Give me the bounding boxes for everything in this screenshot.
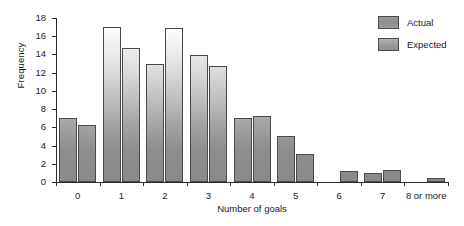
bar-expected-1: [122, 48, 140, 182]
y-tick-label: 16: [35, 30, 46, 41]
y-tick: 2: [52, 164, 56, 165]
x-tick: [56, 182, 57, 186]
x-tick-label: 8 or more: [406, 190, 447, 201]
bar-expected-4: [253, 116, 271, 182]
x-tick: [230, 182, 231, 186]
x-tick: [100, 182, 101, 186]
x-tick: [143, 182, 144, 186]
x-tick-label: 5: [293, 190, 298, 201]
bar-expected-2: [165, 28, 183, 182]
bar-actual-2: [146, 64, 164, 182]
y-tick-label: 10: [35, 84, 46, 95]
y-tick-label: 14: [35, 48, 46, 59]
y-axis-title: Frequency: [15, 24, 26, 108]
x-tick: [274, 182, 275, 186]
bar-expected-6: [340, 171, 358, 182]
y-tick-label: 12: [35, 66, 46, 77]
x-axis-title: Number of goals: [56, 203, 448, 214]
legend-item-expected: Expected: [378, 36, 447, 53]
x-tick: [448, 182, 449, 186]
y-tick-label: 0: [41, 176, 46, 187]
bar-actual-1: [103, 27, 121, 182]
x-tick-label: 0: [75, 190, 80, 201]
y-axis-line: [56, 18, 57, 182]
y-tick-label: 8: [41, 103, 46, 114]
y-tick: 12: [52, 73, 56, 74]
bar-expected-7: [383, 170, 401, 182]
x-tick-label: 4: [249, 190, 254, 201]
bar-expected-5: [296, 154, 314, 182]
bar-actual-7: [364, 173, 382, 182]
bar-actual-0: [59, 118, 77, 182]
x-tick: [317, 182, 318, 186]
x-tick: [187, 182, 188, 186]
bar-expected-0: [78, 125, 96, 182]
bar-actual-5: [277, 136, 295, 182]
y-tick: 10: [52, 91, 56, 92]
y-tick-label: 18: [35, 12, 46, 23]
legend: Actual Expected: [378, 14, 447, 58]
bar-actual-3: [190, 55, 208, 182]
y-tick: 16: [52, 36, 56, 37]
bar-expected-8: [427, 178, 445, 182]
x-tick: [404, 182, 405, 186]
y-tick: 4: [52, 146, 56, 147]
y-tick: 18: [52, 18, 56, 19]
legend-swatch-expected: [378, 38, 399, 51]
x-tick: [361, 182, 362, 186]
y-tick: 8: [52, 109, 56, 110]
legend-label-expected: Expected: [407, 39, 447, 50]
x-tick-label: 7: [380, 190, 385, 201]
bar-expected-3: [209, 66, 227, 182]
x-axis-line: [56, 182, 448, 183]
bar-chart-figure: Frequency 024681012141618 012345678 or m…: [0, 0, 464, 226]
x-tick-label: 3: [206, 190, 211, 201]
x-tick-label: 1: [119, 190, 124, 201]
legend-label-actual: Actual: [407, 17, 433, 28]
y-tick: 6: [52, 127, 56, 128]
legend-item-actual: Actual: [378, 14, 447, 31]
y-tick: 14: [52, 54, 56, 55]
x-tick-label: 6: [336, 190, 341, 201]
bar-actual-4: [234, 118, 252, 182]
legend-swatch-actual: [378, 16, 399, 29]
y-tick-label: 4: [41, 139, 46, 150]
x-tick-label: 2: [162, 190, 167, 201]
y-tick-label: 2: [41, 157, 46, 168]
y-tick-label: 6: [41, 121, 46, 132]
